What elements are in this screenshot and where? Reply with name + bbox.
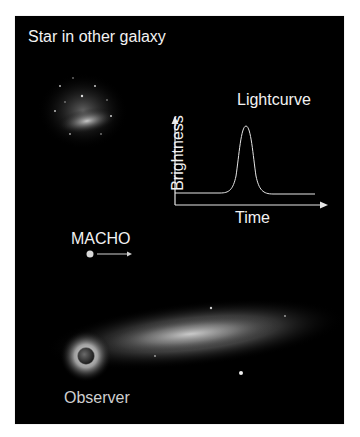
earth-icon	[78, 348, 95, 365]
diagram-panel: Star in other galaxy Lightcurve Brightne…	[15, 16, 344, 424]
x-axis-arrow-icon	[320, 202, 328, 209]
arrow-right-icon	[127, 252, 132, 257]
lightcurve-line	[175, 126, 315, 194]
macho-object	[87, 251, 133, 258]
lightcurve-plot	[172, 116, 329, 209]
illustration-layer	[15, 16, 344, 424]
lightcurve-title: Lightcurve	[237, 91, 311, 109]
y-axis-label: Brightness	[169, 108, 187, 198]
observer-label: Observer	[64, 389, 130, 407]
source-star-label: Star in other galaxy	[28, 28, 166, 46]
x-axis-label: Time	[235, 209, 270, 227]
macho-label: MACHO	[71, 230, 131, 248]
observer-earth	[60, 330, 112, 382]
source-galaxy	[38, 73, 128, 149]
